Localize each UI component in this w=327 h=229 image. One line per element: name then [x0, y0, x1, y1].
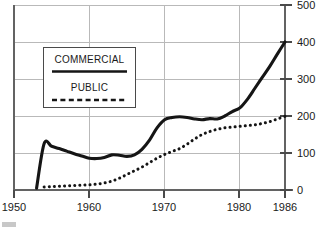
x-tick-label-1970: 1970 [152, 201, 176, 213]
y-tickmarks [280, 5, 292, 190]
y-tick-label-400: 400 [297, 36, 315, 48]
x-tickmarks [14, 190, 285, 198]
line-chart: 500 400 300 200 100 0 1950 1960 1970 198… [0, 0, 327, 229]
chart-legend: COMMERCIAL PUBLIC [44, 48, 136, 108]
y-tick-label-500: 500 [297, 0, 315, 11]
legend-label-commercial: COMMERCIAL [55, 54, 125, 65]
y-tick-label-0: 0 [297, 184, 303, 196]
scan-edge-artifact [2, 222, 16, 227]
legend-label-public: PUBLIC [71, 82, 108, 93]
x-axis-tick-labels: 1950 1960 1970 1980 1986 [2, 201, 297, 213]
x-tick-label-1950: 1950 [2, 201, 26, 213]
series-line-public [44, 116, 285, 187]
y-tick-label-200: 200 [297, 110, 315, 122]
y-tick-label-100: 100 [297, 147, 315, 159]
x-tick-label-1960: 1960 [77, 201, 101, 213]
y-axis-tick-labels: 500 400 300 200 100 0 [297, 0, 315, 196]
x-tick-label-1980: 1980 [227, 201, 251, 213]
y-tick-label-300: 300 [297, 73, 315, 85]
chart-container: 500 400 300 200 100 0 1950 1960 1970 198… [0, 0, 327, 229]
x-tick-label-1986: 1986 [273, 201, 297, 213]
